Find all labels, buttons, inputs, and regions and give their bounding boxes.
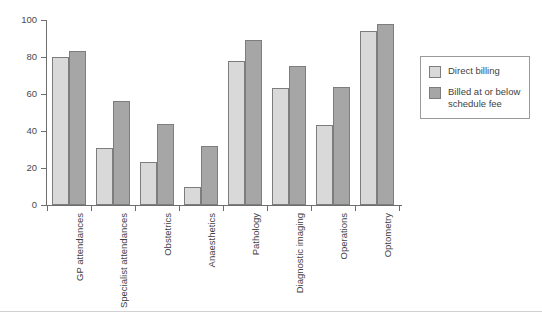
legend-item-billed-at-or-below-schedule-fee: Billed at or below schedule fee (429, 86, 522, 109)
y-axis-tick-label: 100 (21, 13, 37, 26)
legend-item-label: Direct billing (448, 65, 500, 77)
bar-group (96, 20, 130, 205)
x-axis-label: Operations (338, 213, 349, 259)
x-axis-label: GP attendances (74, 213, 85, 281)
bar-chart: 020406080100 GP attendancesSpecialist at… (0, 0, 542, 319)
bar (228, 61, 245, 205)
x-axis-tick-label: GP attendances (74, 213, 85, 281)
bar (272, 88, 289, 205)
x-axis-tick-mark (91, 205, 92, 211)
bar-group (360, 20, 394, 205)
x-axis-tick-mark (135, 205, 136, 211)
x-axis-label: Pathology (250, 213, 261, 255)
x-axis-tick-mark (47, 205, 48, 211)
x-axis-label: Specialist attendances (118, 213, 129, 308)
y-axis-tick-mark (41, 205, 46, 206)
x-axis-label: Anaesthetics (206, 213, 217, 267)
bar (113, 101, 130, 205)
y-axis-tick-label: 40 (26, 124, 37, 137)
x-axis-tick-label: Operations (338, 213, 349, 259)
x-axis-tick-label: Obstetrics (162, 213, 173, 256)
legend-item-direct-billing: Direct billing (429, 65, 522, 78)
bar (140, 162, 157, 205)
x-axis-tick-mark (267, 205, 268, 211)
x-axis-tick-label: Pathology (250, 213, 261, 255)
x-axis-label: Obstetrics (162, 213, 173, 256)
bar-group (140, 20, 174, 205)
bar (333, 87, 350, 205)
bar (157, 124, 174, 205)
bar (96, 148, 113, 205)
x-axis-label: Diagnostic imaging (294, 213, 305, 293)
y-axis-tick-label: 60 (26, 87, 37, 100)
bar-group (272, 20, 306, 205)
x-axis-tick-mark (355, 205, 356, 211)
x-axis-tick-mark (223, 205, 224, 211)
legend-swatch-icon (429, 87, 441, 99)
x-axis-tick-label: Diagnostic imaging (294, 213, 305, 293)
y-axis-tick-mark (41, 57, 46, 58)
bar (184, 187, 201, 206)
legend-item-label: Billed at or below schedule fee (448, 86, 522, 109)
x-axis-line (46, 205, 402, 206)
x-axis-tick-label: Optometry (382, 213, 393, 257)
x-axis-tick-label: Specialist attendances (118, 213, 129, 308)
bar (69, 51, 86, 205)
x-axis-tick-mark (311, 205, 312, 211)
x-axis-tick-mark (399, 205, 400, 211)
y-axis-tick-mark (41, 131, 46, 132)
y-axis-tick-mark (41, 20, 46, 21)
bar-group (228, 20, 262, 205)
y-axis-tick-mark (41, 94, 46, 95)
bar (52, 57, 69, 205)
bar-group (52, 20, 86, 205)
bar-group (184, 20, 218, 205)
x-axis-tick-label: Anaesthetics (206, 213, 217, 267)
chart-legend: Direct billing Billed at or below schedu… (420, 56, 530, 119)
bar (316, 125, 333, 205)
bar-group (316, 20, 350, 205)
bar (245, 40, 262, 205)
y-axis-tick-label: 80 (26, 50, 37, 63)
x-axis-label: Optometry (382, 213, 393, 257)
x-axis-tick-mark (179, 205, 180, 211)
y-axis-tick-label: 0 (32, 198, 37, 211)
plot-area (47, 20, 399, 205)
legend-swatch-icon (429, 66, 441, 78)
bar (377, 24, 394, 205)
bar (201, 146, 218, 205)
bar (360, 31, 377, 205)
y-axis-tick-mark (41, 168, 46, 169)
y-axis-tick-label: 20 (26, 161, 37, 174)
bar (289, 66, 306, 205)
footer-divider (0, 311, 542, 312)
